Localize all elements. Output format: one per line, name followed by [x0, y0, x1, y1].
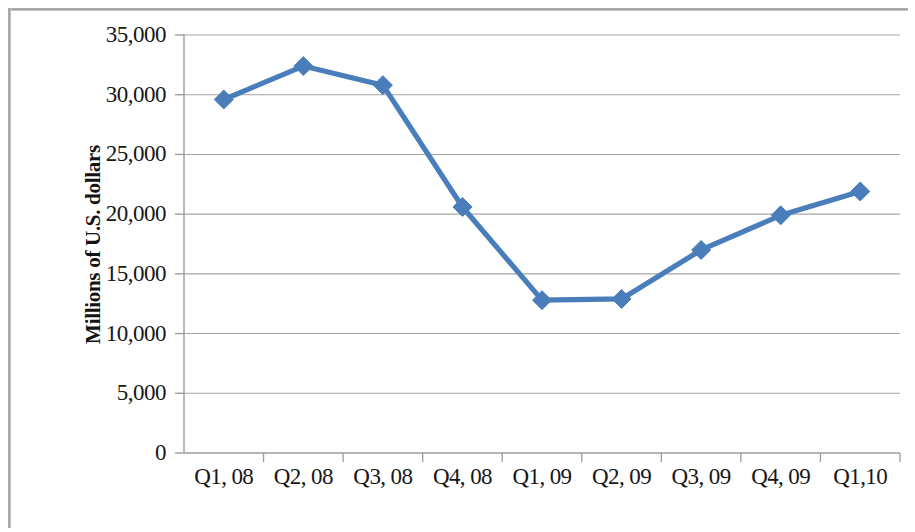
data-point-marker: [214, 90, 233, 109]
data-point-marker: [294, 57, 313, 76]
data-point-marker: [771, 206, 790, 225]
line-chart: Millions of U.S. dollars 05,00010,00015,…: [0, 0, 915, 532]
chart-page: Millions of U.S. dollars 05,00010,00015,…: [0, 0, 915, 532]
series-line: [224, 66, 860, 300]
data-point-marker: [851, 182, 870, 201]
axis-tick-marks: [175, 35, 900, 462]
gridlines: [184, 35, 900, 453]
plot-area: [0, 0, 915, 532]
